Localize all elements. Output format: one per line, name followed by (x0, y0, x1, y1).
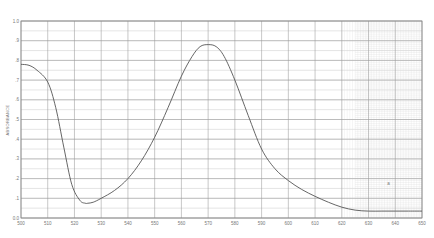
x-tick-label: 530 (97, 221, 105, 226)
x-tick-label: 510 (44, 221, 52, 226)
x-tick-label: 610 (311, 221, 319, 226)
y-tick-label: .4 (15, 137, 19, 142)
x-tick-label: 500 (17, 221, 25, 226)
y-tick-label: 0.0 (13, 216, 20, 221)
x-tick-label: 560 (178, 221, 186, 226)
y-axis-title: ABSORBANCE (5, 105, 10, 136)
y-axis-ticks: 0.0.1.2.3.4.5.6.7.8.91.0 (13, 19, 20, 221)
x-tick-label: 650 (418, 221, 426, 226)
y-tick-label: .2 (15, 176, 19, 181)
x-tick-label: 630 (365, 221, 373, 226)
x-tick-label: 590 (258, 221, 266, 226)
y-tick-label: .9 (15, 38, 19, 43)
y-tick-label: 1.0 (13, 19, 20, 24)
x-tick-label: 580 (231, 221, 239, 226)
y-tick-label: .6 (15, 97, 19, 102)
y-tick-label: .5 (15, 117, 19, 122)
x-axis-ticks: 5005105205305405505605705805906006106206… (17, 221, 426, 226)
x-tick-label: 620 (338, 221, 346, 226)
absorbance-chart: 5005105205305405505605705805906006106206… (0, 0, 434, 238)
x-tick-label: 520 (71, 221, 79, 226)
absorbance-curve (21, 45, 422, 212)
x-tick-label: 550 (151, 221, 159, 226)
y-tick-label: .3 (15, 156, 19, 161)
x-tick-label: 600 (285, 221, 293, 226)
y-tick-label: .8 (15, 58, 19, 63)
x-tick-label: 640 (392, 221, 400, 226)
x-tick-label: 540 (124, 221, 132, 226)
y-tick-label: .1 (15, 196, 19, 201)
x-tick-label: 570 (204, 221, 212, 226)
y-tick-label: .7 (15, 78, 19, 83)
